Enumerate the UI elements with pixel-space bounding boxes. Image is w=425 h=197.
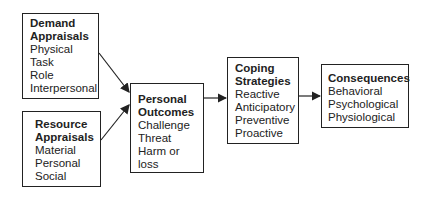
outcomes-title-2: Outcomes — [138, 106, 199, 119]
resource-item: Social — [35, 170, 96, 183]
arrow-resource-to-outcomes — [101, 105, 129, 140]
demand-title-2: Appraisals — [30, 30, 94, 43]
resource-title-2: Appraisals — [35, 131, 96, 144]
resource-item: Personal — [35, 157, 96, 170]
demand-item: Physical — [30, 43, 94, 56]
outcomes-item: Challenge — [138, 119, 199, 132]
demand-appraisals-box: Demand Appraisals Physical Task Role Int… — [22, 13, 99, 99]
coping-item: Proactive — [235, 127, 294, 140]
consequences-item: Psychological — [328, 98, 404, 111]
coping-title-2: Strategies — [235, 75, 294, 88]
demand-item: Task — [30, 56, 94, 69]
consequences-item: Behavioral — [328, 85, 404, 98]
demand-title-1: Demand — [30, 17, 94, 30]
consequences-item: Physiological — [328, 111, 404, 124]
consequences-title: Consequences — [328, 72, 404, 85]
resource-appraisals-box: Resource Appraisals Material Personal So… — [22, 111, 101, 187]
resource-item: Material — [35, 144, 96, 157]
resource-title-1: Resource — [35, 118, 96, 131]
outcomes-title-1: Personal — [138, 93, 199, 106]
coping-item: Reactive — [235, 88, 294, 101]
demand-item: Interpersonal — [30, 82, 94, 95]
coping-item: Preventive — [235, 114, 294, 127]
personal-outcomes-box: Personal Outcomes Challenge Threat Harm … — [130, 83, 204, 173]
coping-strategies-box: Coping Strategies Reactive Anticipatory … — [227, 57, 299, 144]
outcomes-item: Harm or loss — [138, 145, 199, 171]
coping-title-1: Coping — [235, 62, 294, 75]
coping-item: Anticipatory — [235, 101, 294, 114]
consequences-box: Consequences Behavioral Psychological Ph… — [321, 64, 409, 128]
outcomes-item: Threat — [138, 132, 199, 145]
demand-item: Role — [30, 69, 94, 82]
arrow-demand-to-outcomes — [99, 53, 129, 92]
